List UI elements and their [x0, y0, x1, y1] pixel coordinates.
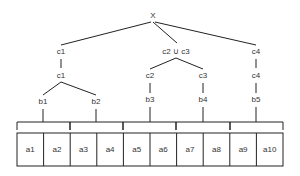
leaf-a3: a3 — [70, 133, 97, 166]
leaf-a1: a1 — [17, 133, 44, 166]
node-c2: c2 — [146, 72, 154, 80]
leaf-a7: a7 — [177, 133, 204, 166]
node-c1-top: c1 — [57, 48, 65, 56]
node-c2-union-c3: c2 ∪ c3 — [162, 48, 189, 56]
leaf-a8: a8 — [203, 133, 230, 166]
node-b1: b1 — [39, 98, 48, 106]
leaf-a6: a6 — [150, 133, 177, 166]
leaf-a2: a2 — [44, 133, 71, 166]
leaf-a10: a10 — [256, 133, 283, 166]
leaf-a9: a9 — [230, 133, 257, 166]
root-node-x: X — [150, 12, 155, 20]
node-b4: b4 — [199, 96, 208, 104]
node-b2: b2 — [92, 98, 101, 106]
leaf-a5: a5 — [123, 133, 150, 166]
node-b5: b5 — [252, 96, 261, 104]
node-c4-top: c4 — [252, 48, 260, 56]
node-b3: b3 — [146, 96, 155, 104]
node-c3: c3 — [199, 72, 207, 80]
node-c1: c1 — [57, 72, 65, 80]
leaf-a4: a4 — [97, 133, 124, 166]
node-c4: c4 — [252, 72, 260, 80]
